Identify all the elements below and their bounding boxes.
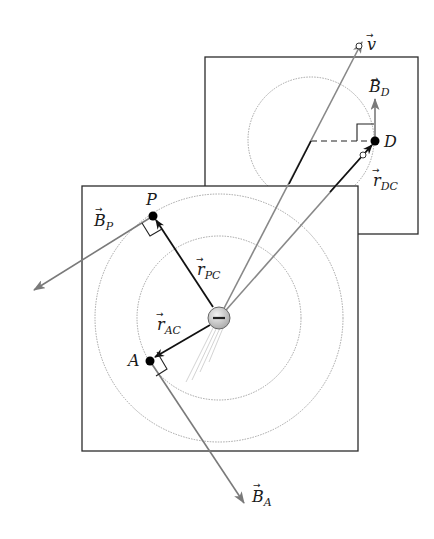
negative-charge	[208, 307, 230, 329]
vector-arrow-v: →	[366, 30, 374, 40]
point-P	[149, 212, 158, 221]
velocity-arrow-head-ring	[356, 43, 362, 49]
point-D	[371, 137, 380, 146]
label-A: A	[126, 351, 140, 370]
label-P: P	[145, 190, 157, 209]
r-DC-arrow-head-ring	[360, 152, 366, 158]
point-A	[146, 357, 155, 366]
label-D: D	[383, 132, 397, 151]
label-B-A: BA	[251, 487, 272, 509]
moving-charge-field-diagram: v → → BD D → rDC P → BP → rPC → rAC A → …	[0, 0, 434, 539]
